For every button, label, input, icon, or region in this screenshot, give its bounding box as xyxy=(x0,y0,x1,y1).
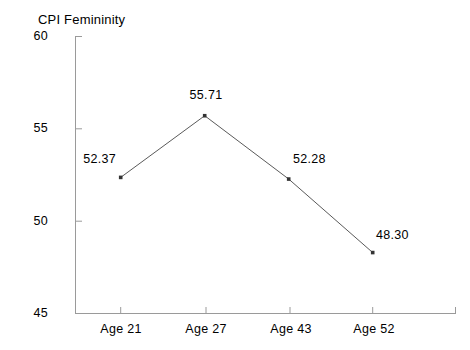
data-point-age-43 xyxy=(287,177,291,181)
data-point-age-52 xyxy=(371,251,375,255)
data-point-age-21 xyxy=(119,176,123,180)
x-tick-marks xyxy=(121,307,373,314)
data-point-age-27 xyxy=(203,114,207,118)
chart-container: CPI Femininity 60 55 50 45 Age 21 Age 27… xyxy=(0,0,470,350)
data-markers xyxy=(119,114,375,254)
y-tick-marks xyxy=(76,37,83,314)
data-line-cpi-femininity xyxy=(121,116,373,253)
plot-area xyxy=(0,0,470,350)
